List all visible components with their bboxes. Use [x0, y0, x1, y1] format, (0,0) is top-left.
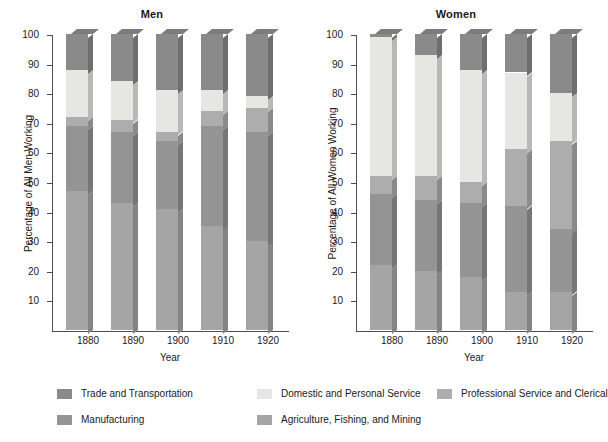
bar-segment-side-face — [437, 176, 442, 204]
bar-1880[interactable] — [370, 34, 396, 330]
bar-segment[interactable] — [370, 194, 392, 265]
bar-segment-side-face — [133, 132, 138, 207]
bar-segment-side-face — [133, 203, 138, 334]
bar-segment[interactable] — [111, 132, 133, 203]
y-axis-line — [52, 35, 53, 332]
bar-segment-side-face — [527, 34, 532, 76]
bar-segment-side-face — [392, 37, 397, 180]
bar-segment[interactable] — [415, 176, 437, 200]
bar-segment[interactable] — [66, 70, 88, 117]
bar-segment[interactable] — [460, 277, 482, 330]
bar-stack — [246, 34, 268, 330]
bar-1920[interactable] — [246, 34, 272, 330]
bar-segment[interactable] — [246, 96, 268, 108]
plot-area-women: 1020304050607080901001880189019001910192… — [356, 35, 592, 331]
bar-segment[interactable] — [505, 206, 527, 292]
bar-top-face — [465, 29, 493, 34]
bar-segment[interactable] — [370, 34, 392, 37]
bar-segment-side-face — [572, 93, 577, 144]
bar-segment[interactable] — [156, 209, 178, 330]
bar-stack — [156, 34, 178, 330]
bar-segment[interactable] — [246, 108, 268, 132]
bar-segment[interactable] — [156, 90, 178, 131]
bar-segment[interactable] — [370, 265, 392, 330]
bar-segment[interactable] — [156, 34, 178, 90]
legend-item[interactable]: Manufacturing — [57, 414, 144, 425]
bar-segment[interactable] — [505, 73, 527, 150]
bar-segment[interactable] — [550, 34, 572, 93]
bar-segment-side-face — [392, 194, 397, 269]
bar-segment[interactable] — [111, 120, 133, 132]
bar-segment[interactable] — [246, 132, 268, 242]
y-axis-tick: 100 — [351, 35, 356, 36]
bar-segment[interactable] — [460, 34, 482, 70]
legend-item[interactable]: Domestic and Personal Service — [257, 388, 421, 399]
bar-segment-side-face — [527, 149, 532, 209]
bar-segment[interactable] — [156, 132, 178, 141]
bar-1920[interactable] — [550, 34, 576, 330]
legend-item[interactable]: Professional Service and Clerical — [437, 388, 608, 399]
bar-segment[interactable] — [550, 93, 572, 140]
bar-1890[interactable] — [111, 34, 137, 330]
bar-segment-side-face — [133, 81, 138, 123]
y-axis-tick: 60 — [47, 153, 52, 154]
bar-segment[interactable] — [246, 34, 268, 96]
bar-segment[interactable] — [246, 241, 268, 330]
bar-segment-side-face — [437, 200, 442, 275]
bar-1890[interactable] — [415, 34, 441, 330]
bar-segment[interactable] — [201, 126, 223, 227]
bar-segment[interactable] — [111, 81, 133, 119]
bar-segment-side-face — [133, 34, 138, 85]
bar-1900[interactable] — [156, 34, 182, 330]
bar-segment-side-face — [88, 191, 93, 334]
legend-label: Domestic and Personal Service — [281, 388, 421, 399]
bar-segment[interactable] — [66, 117, 88, 126]
bar-segment-side-face — [223, 226, 228, 334]
bar-segment[interactable] — [201, 111, 223, 126]
y-axis-tick: 40 — [47, 213, 52, 214]
bar-segment[interactable] — [415, 200, 437, 271]
bar-stack — [550, 34, 572, 330]
bar-1900[interactable] — [460, 34, 486, 330]
bar-segment[interactable] — [415, 271, 437, 330]
bar-1880[interactable] — [66, 34, 92, 330]
bar-segment[interactable] — [460, 70, 482, 182]
y-axis-tick-label: 80 — [332, 93, 343, 94]
y-axis-tick: 20 — [47, 272, 52, 273]
y-axis-tick: 10 — [351, 301, 356, 302]
bar-segment[interactable] — [460, 182, 482, 203]
legend-item[interactable]: Agriculture, Fishing, and Mining — [257, 414, 421, 425]
bar-segment[interactable] — [460, 203, 482, 277]
bar-segment[interactable] — [201, 34, 223, 90]
bar-segment[interactable] — [505, 149, 527, 205]
bar-segment[interactable] — [66, 126, 88, 191]
y-axis-tick: 60 — [351, 153, 356, 154]
bar-segment[interactable] — [201, 90, 223, 111]
bar-segment-side-face — [482, 203, 487, 281]
bar-segment[interactable] — [111, 34, 133, 81]
bar-1910[interactable] — [505, 34, 531, 330]
bar-segment[interactable] — [111, 203, 133, 330]
bar-segment[interactable] — [66, 191, 88, 330]
bar-segment[interactable] — [66, 34, 88, 70]
y-axis-tick-label: 90 — [332, 64, 343, 65]
bar-segment[interactable] — [550, 292, 572, 330]
bar-segment[interactable] — [550, 141, 572, 230]
bar-top-face — [71, 29, 99, 34]
bar-1910[interactable] — [201, 34, 227, 330]
bar-segment[interactable] — [550, 229, 572, 291]
bar-top-face — [116, 29, 144, 34]
legend-label: Professional Service and Clerical — [461, 388, 608, 399]
bar-segment[interactable] — [370, 37, 392, 176]
legend-item[interactable]: Trade and Transportation — [57, 388, 193, 399]
bar-segment[interactable] — [415, 55, 437, 176]
y-axis-tick-label: 70 — [332, 123, 343, 124]
bar-segment[interactable] — [415, 34, 437, 55]
bar-segment[interactable] — [505, 292, 527, 330]
bar-segment[interactable] — [505, 34, 527, 72]
bar-segment[interactable] — [156, 141, 178, 209]
bar-segment[interactable] — [201, 226, 223, 330]
chart-legend: Trade and TransportationDomestic and Per… — [0, 386, 608, 434]
bar-segment[interactable] — [370, 176, 392, 194]
x-axis-label-women: Year — [356, 352, 592, 363]
